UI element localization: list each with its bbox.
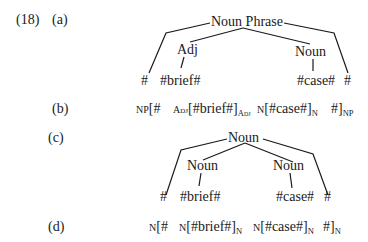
tree-branches <box>0 0 368 242</box>
branch-a-adj <box>190 28 243 42</box>
bracket-b-adj: Adj[#brief#]Adj <box>173 102 251 116</box>
bracket-d-n-open: N[# <box>149 220 168 234</box>
tree-a-leaf-brief: #brief# <box>160 74 200 88</box>
bracket-d-noun-brief: N[#brief#]N <box>179 220 242 234</box>
branch-a-noun <box>243 28 310 44</box>
branch-c-noun1-leaf <box>199 173 201 186</box>
tree-a-leaf-case: #case# <box>297 74 335 88</box>
part-a-label: (a) <box>52 13 68 27</box>
tree-c-node-noun-left: Noun <box>187 159 218 173</box>
tree-c-leaf-boundary-left: # <box>160 190 167 204</box>
bracket-b-np-open: NP[# <box>136 102 160 116</box>
tree-a-node-adj: Adj <box>177 43 198 57</box>
tree-c-leaf-boundary-right: # <box>324 190 331 204</box>
tree-c-leaf-case: #case# <box>276 190 314 204</box>
part-b-label: (b) <box>52 102 68 116</box>
example-number: (18) <box>16 13 39 27</box>
tree-c-leaf-brief: #brief# <box>180 190 220 204</box>
tree-a-leaf-boundary-right: # <box>344 74 351 88</box>
bracket-d-noun-case: N[#case#]N <box>253 220 314 234</box>
tree-c-root: Noun <box>228 131 259 145</box>
part-d-label: (d) <box>48 220 64 234</box>
tree-a-root: Noun Phrase <box>211 15 283 29</box>
branch-a-adj-leaf <box>181 57 184 68</box>
bracket-b-np-close: #]NP <box>331 102 354 116</box>
tree-a-leaf-boundary-left: # <box>141 74 148 88</box>
branch-c-noun2-leaf <box>290 173 292 188</box>
bracket-d-n-close: #]N <box>323 220 341 234</box>
bracket-b-noun: N[#case#]N <box>257 102 318 116</box>
tree-a-node-noun: Noun <box>295 45 326 59</box>
tree-c-node-noun-right: Noun <box>273 159 304 173</box>
part-c-label: (c) <box>48 131 64 145</box>
